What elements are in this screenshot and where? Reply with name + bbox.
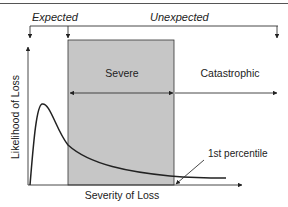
percentile-label: 1st percentile xyxy=(208,148,268,159)
x-axis-label: Severity of Loss xyxy=(85,189,160,201)
loss-distribution-diagram: Expected Unexpected Severe Catastrophic … xyxy=(0,0,288,207)
y-axis-label: Likelihood of Loss xyxy=(9,75,21,159)
unexpected-label: Unexpected xyxy=(150,11,210,23)
expected-label: Expected xyxy=(32,11,79,23)
severe-label: Severe xyxy=(105,67,138,79)
catastrophic-label: Catastrophic xyxy=(201,67,260,79)
percentile-pointer-arrow xyxy=(176,160,204,184)
severe-shaded-region xyxy=(68,40,174,185)
region-bracket xyxy=(30,26,278,38)
